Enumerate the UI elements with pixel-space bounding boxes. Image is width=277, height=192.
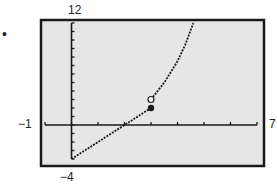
- open-endpoint: [148, 97, 154, 103]
- plot-frame: [41, 20, 264, 166]
- closed-endpoint: [148, 105, 154, 111]
- graph-window: [0, 0, 277, 192]
